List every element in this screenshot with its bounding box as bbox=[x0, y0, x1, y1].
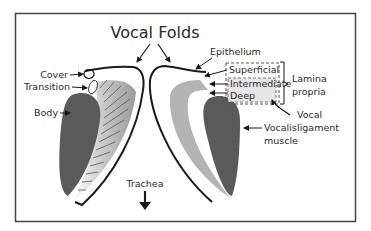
label-vocalis-line1: Vocalis bbox=[264, 122, 297, 133]
label-trachea: Trachea bbox=[125, 178, 163, 189]
label-vocalis-line2: muscle bbox=[264, 135, 298, 146]
label-lamina-line2: propria bbox=[292, 86, 326, 97]
label-lamina-line1: Lamina bbox=[292, 73, 327, 84]
label-epithelium: Epithelium bbox=[210, 46, 261, 57]
label-transition: Transition bbox=[23, 81, 70, 92]
label-deep: Deep bbox=[230, 90, 255, 101]
label-cover: Cover bbox=[40, 69, 68, 80]
vocal-folds-diagram: Vocal Folds Cover bbox=[0, 0, 371, 231]
label-vocal-ligament-line2: ligament bbox=[297, 122, 339, 133]
label-superficial: Superficial bbox=[229, 64, 279, 75]
label-intermediate: Intermediate bbox=[230, 78, 291, 89]
label-vocal-ligament-line1: Vocal bbox=[297, 109, 322, 120]
diagram-title: Vocal Folds bbox=[111, 23, 200, 42]
label-body: Body bbox=[34, 107, 58, 118]
